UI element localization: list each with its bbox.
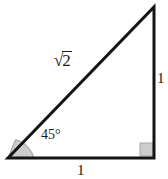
triangle-diagram: √2 45° 1 1 [0,0,168,179]
base-side-label: 1 [77,163,85,178]
right-angle-marker-icon [140,143,153,156]
radicand-value: 2 [62,51,72,69]
radical-symbol: √2 [54,51,72,69]
angle-label: 45° [41,128,61,142]
vertical-side-label: 1 [157,71,165,86]
triangle-svg-canvas [0,0,168,179]
hypotenuse-label: √2 [54,51,72,69]
triangle-outline [8,7,154,158]
